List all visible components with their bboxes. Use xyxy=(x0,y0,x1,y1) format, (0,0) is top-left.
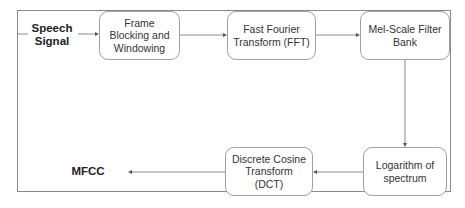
step-label: Frame Blocking and Windowing xyxy=(104,17,175,55)
output-label-mfcc: MFCC xyxy=(68,165,108,178)
step-logarithm: Logarithm of spectrum xyxy=(363,147,447,196)
step-mel-filter-bank: Mel-Scale Filter Bank xyxy=(360,11,450,60)
step-label: Discrete Cosine Transform (DCT) xyxy=(230,153,308,191)
step-label: Mel-Scale Filter Bank xyxy=(365,23,445,48)
step-label: Logarithm of spectrum xyxy=(368,159,442,184)
step-frame-blocking: Frame Blocking and Windowing xyxy=(99,11,180,60)
step-fft: Fast Fourier Transform (FFT) xyxy=(227,11,316,60)
input-label-speech-signal: Speech Signal xyxy=(28,22,76,48)
step-dct: Discrete Cosine Transform (DCT) xyxy=(225,147,313,196)
step-label: Fast Fourier Transform (FFT) xyxy=(232,23,311,48)
